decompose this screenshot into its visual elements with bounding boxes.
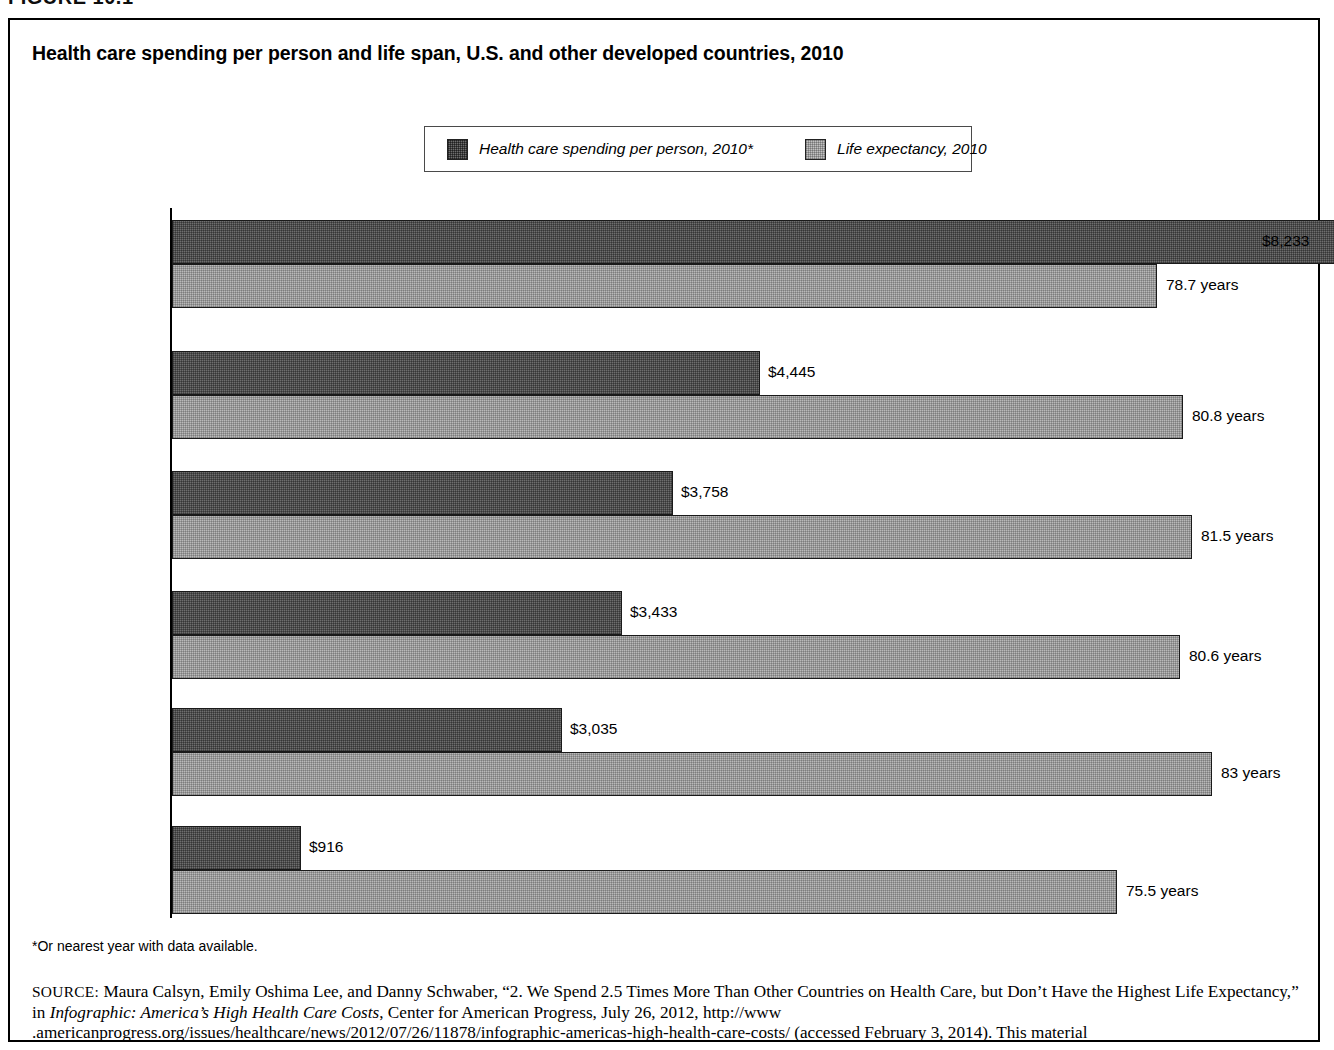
bar-value-spending-japan: $3,035 — [570, 720, 617, 738]
bar-life-mexico — [172, 870, 1117, 914]
bar-value-spending-sweden: $3,758 — [681, 483, 728, 501]
bar-value-life-united-kingdom: 80.6 years — [1189, 647, 1261, 665]
chart-source-note: SOURCE: Maura Calsyn, Emily Oshima Lee, … — [32, 982, 1304, 1044]
bar-life-japan — [172, 752, 1212, 796]
figure-box: Health care spending per person and life… — [8, 18, 1320, 1042]
source-prefix: SOURCE: — [32, 983, 99, 1000]
bar-value-life-japan: 83 years — [1221, 764, 1280, 782]
bar-value-spending-mexico: $916 — [309, 838, 343, 856]
bar-life-sweden — [172, 515, 1192, 559]
bar-value-spending-united-states: $8,233 — [1262, 232, 1309, 250]
bar-life-canada — [172, 395, 1183, 439]
bar-spending-japan — [172, 708, 562, 752]
bar-value-life-sweden: 81.5 years — [1201, 527, 1273, 545]
bar-spending-mexico — [172, 826, 301, 870]
bar-value-life-mexico: 75.5 years — [1126, 882, 1198, 900]
bar-value-spending-canada: $4,445 — [768, 363, 815, 381]
bar-value-life-canada: 80.8 years — [1192, 407, 1264, 425]
bar-value-life-united-states: 78.7 years — [1166, 276, 1238, 294]
y-axis-line — [170, 208, 172, 918]
bar-value-spending-united-kingdom: $3,433 — [630, 603, 677, 621]
chart-footnote: *Or nearest year with data available. — [32, 938, 258, 954]
bar-life-united-kingdom — [172, 635, 1180, 679]
bar-spending-united-kingdom — [172, 591, 622, 635]
bar-life-united-states — [172, 264, 1157, 308]
figure-label: FIGURE 10.1 — [8, 0, 134, 9]
bar-spending-sweden — [172, 471, 673, 515]
bar-spending-united-states — [172, 220, 1334, 264]
source-italic-title: Infographic: America’s High Health Care … — [50, 1003, 380, 1022]
chart-plot-area: United States $8,233 78.7 years Canada $… — [10, 20, 1318, 1040]
bar-spending-canada — [172, 351, 760, 395]
